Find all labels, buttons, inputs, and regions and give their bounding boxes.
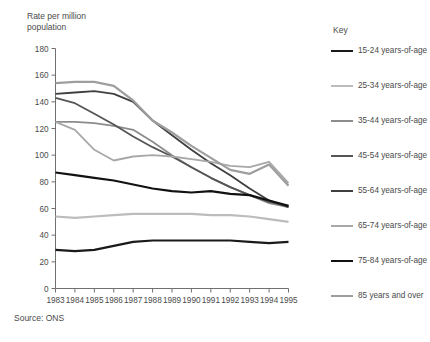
chart-series-lines <box>56 82 289 251</box>
legend-item-label: 75-84 years-of-age <box>358 256 427 266</box>
x-tick-label: 1985 <box>85 296 104 305</box>
legend-item-label: 25-34 years-of-age <box>358 81 427 91</box>
legend-item[interactable]: 45-54 years-of-age <box>331 151 430 186</box>
x-tick-label: 1990 <box>182 296 201 305</box>
legend-item[interactable]: 15-24 years-of-age <box>331 46 430 81</box>
y-tick-label: 100 <box>35 151 49 160</box>
y-tick-label: 0 <box>44 285 49 294</box>
x-tick-label: 1995 <box>279 296 298 305</box>
source-note: Source: ONS <box>14 313 64 323</box>
legend-color-swatch <box>331 190 353 192</box>
series-line <box>56 91 289 207</box>
y-axis-title: Rate per million population <box>27 11 86 33</box>
legend-title: Key <box>333 25 348 35</box>
chart-axes <box>56 49 289 289</box>
x-tick-label: 1992 <box>221 296 240 305</box>
x-tick-label: 1993 <box>241 296 260 305</box>
legend-item-label: 35-44 years-of-age <box>358 116 427 126</box>
chart-root: Rate per million population 020406080100… <box>0 0 430 342</box>
series-line <box>56 214 289 222</box>
series-line <box>56 173 289 206</box>
y-tick-label: 140 <box>35 98 49 107</box>
y-axis-ticks: 020406080100120140160180 <box>35 45 56 294</box>
y-tick-label: 20 <box>39 258 49 267</box>
y-tick-label: 160 <box>35 71 49 80</box>
legend-item[interactable]: 85 years and over <box>331 291 430 326</box>
legend-color-swatch <box>331 225 353 227</box>
x-tick-label: 1987 <box>124 296 143 305</box>
x-tick-label: 1994 <box>260 296 279 305</box>
legend-color-swatch <box>331 120 353 122</box>
legend-item-label: 45-54 years-of-age <box>358 151 427 161</box>
y-tick-label: 60 <box>39 205 49 214</box>
legend-color-swatch <box>331 85 353 87</box>
series-line <box>56 122 289 183</box>
legend-color-swatch <box>331 295 353 297</box>
legend-item[interactable]: 65-74 years-of-age <box>331 221 430 256</box>
legend-item[interactable]: 25-34 years-of-age <box>331 81 430 116</box>
x-tick-label: 1984 <box>66 296 85 305</box>
x-tick-label: 1988 <box>143 296 162 305</box>
legend-color-swatch <box>331 50 353 52</box>
legend-item[interactable]: 35-44 years-of-age <box>331 116 430 151</box>
y-tick-label: 40 <box>39 231 49 240</box>
x-tick-label: 1991 <box>202 296 221 305</box>
series-line <box>56 98 289 206</box>
legend-color-swatch <box>331 155 353 157</box>
series-line <box>56 241 289 252</box>
series-line <box>56 82 289 186</box>
legend-item-label: 65-74 years-of-age <box>358 221 427 231</box>
y-tick-label: 180 <box>35 45 49 54</box>
legend-item-label: 15-24 years-of-age <box>358 46 427 56</box>
x-tick-label: 1983 <box>46 296 65 305</box>
legend-item-label: 55-64 years-of-age <box>358 186 427 196</box>
x-tick-label: 1986 <box>105 296 124 305</box>
y-tick-label: 120 <box>35 125 49 134</box>
x-axis-ticks: 1983198419851986198719881989199019911992… <box>46 289 298 305</box>
x-tick-label: 1989 <box>163 296 182 305</box>
chart-legend: 15-24 years-of-age25-34 years-of-age35-4… <box>331 46 430 326</box>
legend-item[interactable]: 55-64 years-of-age <box>331 186 430 221</box>
y-tick-label: 80 <box>39 178 49 187</box>
legend-item[interactable]: 75-84 years-of-age <box>331 256 430 291</box>
legend-item-label: 85 years and over <box>358 291 424 301</box>
legend-color-swatch <box>331 260 353 262</box>
